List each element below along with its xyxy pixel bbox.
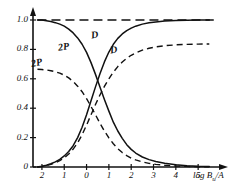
axis-lines <box>30 7 228 170</box>
x-tick-label-3: 0 <box>81 170 93 180</box>
curve-label-2P-dashed: 2P <box>30 56 43 69</box>
x-tick-label-5: 2 <box>125 170 137 180</box>
x-tick-label-6: 3 <box>148 170 160 180</box>
y-tick-label-4: 0.4 <box>2 102 28 112</box>
y-tick-label-3: 0.6 <box>2 73 28 83</box>
curve-2P-dashed <box>37 69 209 167</box>
x-axis-title: log Bu/A <box>193 170 224 183</box>
curve-D-dashed <box>37 44 209 167</box>
x-tick-label-4: 1 <box>103 170 115 180</box>
x-axis-title-tail: /A <box>216 170 224 180</box>
curve-label-2P-solid: 2P <box>57 40 70 52</box>
y-tick-label-6: 0 <box>2 161 28 171</box>
x-axis-title-main: log B <box>193 170 212 180</box>
x-tick-label-1: 2 <box>36 170 48 180</box>
curve-label-D-dashed: D <box>109 44 118 56</box>
chart-plot-area <box>0 0 237 191</box>
x-tick-label-2: 1 <box>58 170 70 180</box>
x-tick-label-7: 4 <box>170 170 182 180</box>
curve-label-D-solid: D <box>90 29 99 41</box>
y-tick-label-1: 1.0 <box>2 14 28 24</box>
chart-figure: 1.0 0.8 0.6 0.4 0.2 0 2 1 0 1 2 3 4 5 lo… <box>0 0 237 191</box>
y-tick-label-2: 0.8 <box>2 43 28 53</box>
y-tick-label-5: 0.2 <box>2 132 28 142</box>
